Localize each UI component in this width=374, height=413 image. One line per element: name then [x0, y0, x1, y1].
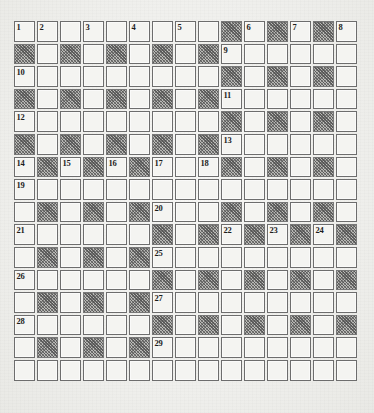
crossword-cell[interactable] — [82, 110, 105, 133]
letter-square[interactable] — [175, 292, 196, 313]
letter-square[interactable] — [267, 247, 288, 268]
letter-square[interactable] — [221, 292, 242, 313]
crossword-cell[interactable]: 10 — [13, 65, 36, 88]
crossword-cell[interactable] — [174, 246, 197, 269]
crossword-cell[interactable] — [59, 178, 82, 201]
crossword-cell[interactable] — [105, 246, 128, 269]
crossword-cell[interactable] — [266, 178, 289, 201]
crossword-cell[interactable] — [105, 65, 128, 88]
crossword-cell[interactable]: 19 — [13, 178, 36, 201]
letter-square[interactable] — [106, 315, 127, 336]
letter-square[interactable] — [106, 21, 127, 42]
crossword-cell[interactable] — [174, 223, 197, 246]
crossword-cell[interactable] — [105, 201, 128, 224]
crossword-cell[interactable] — [105, 223, 128, 246]
letter-square[interactable] — [83, 315, 104, 336]
crossword-cell[interactable] — [128, 43, 151, 66]
letter-square[interactable] — [129, 315, 150, 336]
crossword-cell[interactable] — [82, 359, 105, 382]
crossword-cell[interactable] — [335, 246, 358, 269]
crossword-cell[interactable] — [197, 291, 220, 314]
letter-square[interactable] — [244, 360, 265, 381]
letter-square[interactable] — [336, 179, 357, 200]
letter-square[interactable] — [244, 89, 265, 110]
letter-square[interactable] — [60, 202, 81, 223]
letter-square[interactable]: 24 — [313, 224, 334, 245]
letter-square[interactable]: 17 — [152, 157, 173, 178]
letter-square[interactable] — [14, 337, 35, 358]
letter-square[interactable] — [267, 44, 288, 65]
letter-square[interactable] — [336, 247, 357, 268]
crossword-cell[interactable] — [220, 178, 243, 201]
letter-square[interactable] — [175, 179, 196, 200]
letter-square[interactable] — [244, 247, 265, 268]
letter-square[interactable] — [37, 44, 58, 65]
crossword-cell[interactable] — [36, 314, 59, 337]
letter-square[interactable] — [244, 292, 265, 313]
crossword-cell[interactable] — [289, 359, 312, 382]
letter-square[interactable] — [14, 247, 35, 268]
letter-square[interactable] — [244, 134, 265, 155]
crossword-cell[interactable] — [266, 88, 289, 111]
letter-square[interactable] — [14, 292, 35, 313]
letter-square[interactable] — [244, 157, 265, 178]
crossword-cell[interactable] — [220, 246, 243, 269]
letter-square[interactable]: 13 — [221, 134, 242, 155]
letter-square[interactable] — [267, 89, 288, 110]
crossword-cell[interactable] — [335, 178, 358, 201]
letter-square[interactable] — [198, 247, 219, 268]
letter-square[interactable] — [290, 337, 311, 358]
crossword-cell[interactable] — [335, 359, 358, 382]
crossword-cell[interactable]: 21 — [13, 223, 36, 246]
letter-square[interactable] — [198, 360, 219, 381]
letter-square[interactable] — [60, 111, 81, 132]
letter-square[interactable]: 29 — [152, 337, 173, 358]
crossword-cell[interactable] — [289, 43, 312, 66]
letter-square[interactable] — [244, 66, 265, 87]
letter-square[interactable] — [290, 111, 311, 132]
crossword-cell[interactable]: 2 — [36, 20, 59, 43]
crossword-cell[interactable] — [312, 88, 335, 111]
letter-square[interactable] — [129, 360, 150, 381]
crossword-cell[interactable] — [197, 359, 220, 382]
crossword-cell[interactable] — [82, 269, 105, 292]
crossword-cell[interactable] — [13, 201, 36, 224]
letter-square[interactable] — [60, 337, 81, 358]
crossword-cell[interactable] — [312, 291, 335, 314]
crossword-cell[interactable] — [128, 88, 151, 111]
crossword-cell[interactable] — [335, 110, 358, 133]
crossword-cell[interactable] — [36, 359, 59, 382]
letter-square[interactable] — [221, 315, 242, 336]
crossword-cell[interactable]: 25 — [151, 246, 174, 269]
letter-square[interactable] — [106, 292, 127, 313]
letter-square[interactable] — [175, 111, 196, 132]
crossword-cell[interactable]: 8 — [335, 20, 358, 43]
letter-square[interactable]: 8 — [336, 21, 357, 42]
crossword-cell[interactable]: 28 — [13, 314, 36, 337]
crossword-cell[interactable] — [266, 291, 289, 314]
letter-square[interactable] — [175, 134, 196, 155]
crossword-cell[interactable] — [105, 336, 128, 359]
crossword-cell[interactable] — [36, 88, 59, 111]
letter-square[interactable] — [336, 44, 357, 65]
crossword-cell[interactable] — [243, 88, 266, 111]
crossword-cell[interactable] — [312, 314, 335, 337]
crossword-cell[interactable] — [174, 269, 197, 292]
letter-square[interactable] — [152, 21, 173, 42]
crossword-cell[interactable] — [266, 269, 289, 292]
letter-square[interactable] — [106, 270, 127, 291]
letter-square[interactable] — [290, 89, 311, 110]
letter-square[interactable]: 28 — [14, 315, 35, 336]
letter-square[interactable]: 2 — [37, 21, 58, 42]
crossword-cell[interactable] — [289, 246, 312, 269]
letter-square[interactable] — [290, 66, 311, 87]
crossword-cell[interactable] — [289, 156, 312, 179]
letter-square[interactable] — [175, 270, 196, 291]
crossword-cell[interactable]: 6 — [243, 20, 266, 43]
crossword-cell[interactable] — [174, 291, 197, 314]
crossword-cell[interactable] — [174, 178, 197, 201]
crossword-cell[interactable] — [174, 88, 197, 111]
letter-square[interactable] — [290, 44, 311, 65]
crossword-cell[interactable] — [266, 43, 289, 66]
crossword-cell[interactable]: 12 — [13, 110, 36, 133]
